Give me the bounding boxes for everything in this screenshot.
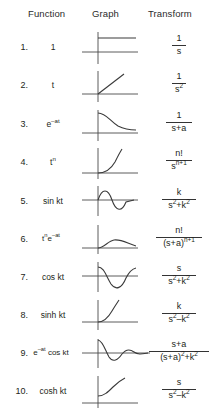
row-transform: n! sn+1 <box>144 149 214 172</box>
row-transform: k s2+k2 <box>144 188 214 211</box>
cosh-growth-graph <box>80 374 144 410</box>
row-index: 4. <box>4 157 28 167</box>
damped-cosine-graph <box>80 336 144 372</box>
row-function: e–at <box>26 119 80 129</box>
sine-wave-graph <box>80 184 144 220</box>
fraction-denominator: (s+a)2+k2 <box>144 353 214 362</box>
row-function: sinh kt <box>26 310 80 320</box>
table-row: 6. tne–at n! (s+a)n+1 <box>0 222 214 258</box>
row-function: 1 <box>26 42 80 52</box>
table-row: 9. e–at cos kt s+a (s+a)2+k2 <box>0 336 214 372</box>
cosine-wave-graph <box>80 260 144 296</box>
row-transform: s s2–k2 <box>144 378 214 401</box>
fraction-numerator: s <box>144 378 214 388</box>
row-transform: 1 s2 <box>144 72 214 95</box>
row-transform: 1 s <box>144 34 214 57</box>
fraction-denominator: s2+k2 <box>144 277 214 286</box>
column-header-graph: Graph <box>92 8 119 19</box>
table-row: 4. tn n! sn+1 <box>0 145 214 181</box>
table-row: 2. t 1 s2 <box>0 68 214 104</box>
fraction-denominator: s2–k2 <box>144 391 214 400</box>
fraction-numerator: s+a <box>144 340 214 350</box>
fraction-numerator: n! <box>144 226 214 236</box>
column-header-function: Function <box>28 8 65 19</box>
fraction-numerator: 1 <box>144 72 214 82</box>
row-index: 3. <box>4 119 28 129</box>
row-index: 5. <box>4 196 28 206</box>
fraction-numerator: k <box>144 302 214 312</box>
row-index: 10. <box>4 386 28 396</box>
row-function: e–at cos kt <box>16 348 86 357</box>
sinh-growth-graph <box>80 298 144 334</box>
row-index: 1. <box>4 42 28 52</box>
table-row: 3. e–at 1 s+a <box>0 107 214 143</box>
fraction-denominator: s2 <box>144 85 214 94</box>
row-transform: s s2+k2 <box>144 264 214 287</box>
fraction-numerator: k <box>144 188 214 198</box>
row-transform: n! (s+a)n+1 <box>144 226 214 249</box>
table-row: 5. sin kt k s2+k2 <box>0 184 214 220</box>
row-transform: 1 s+a <box>144 111 214 134</box>
column-header-transform: Transform <box>148 8 192 19</box>
row-transform: k s2–k2 <box>144 302 214 325</box>
row-function: cosh kt <box>26 386 80 396</box>
fraction-denominator: s+a <box>144 124 214 133</box>
constant-step-graph <box>80 30 144 66</box>
row-transform: s+a (s+a)2+k2 <box>144 340 214 363</box>
fraction-denominator: s <box>144 47 214 56</box>
table-row: 7. cos kt s s2+k2 <box>0 260 214 296</box>
fraction-numerator: 1 <box>144 34 214 44</box>
row-index: 7. <box>4 272 28 282</box>
fraction-denominator: s2+k2 <box>144 201 214 210</box>
fraction-numerator: n! <box>144 149 214 159</box>
row-function: tn <box>26 157 80 167</box>
row-function: tne–at <box>16 234 86 243</box>
damped-power-graph <box>80 222 144 258</box>
fraction-numerator: 1 <box>144 111 214 121</box>
row-function: cos kt <box>26 272 80 282</box>
row-function: t <box>26 80 80 90</box>
row-index: 8. <box>4 310 28 320</box>
row-function: sin kt <box>26 196 80 206</box>
table-row: 8. sinh kt k s2–k2 <box>0 298 214 334</box>
laplace-transform-table: Function Graph Transform 1. 1 1 s 2. t <box>0 0 214 411</box>
row-index: 2. <box>4 80 28 90</box>
power-curve-graph <box>80 145 144 181</box>
table-row: 10. cosh kt s s2–k2 <box>0 374 214 410</box>
table-row: 1. 1 1 s <box>0 30 214 66</box>
linear-ramp-graph <box>80 68 144 104</box>
fraction-denominator: (s+a)n+1 <box>144 239 214 248</box>
fraction-denominator: sn+1 <box>144 162 214 171</box>
exponential-decay-graph <box>80 107 144 143</box>
fraction-numerator: s <box>144 264 214 274</box>
fraction-denominator: s2–k2 <box>144 315 214 324</box>
